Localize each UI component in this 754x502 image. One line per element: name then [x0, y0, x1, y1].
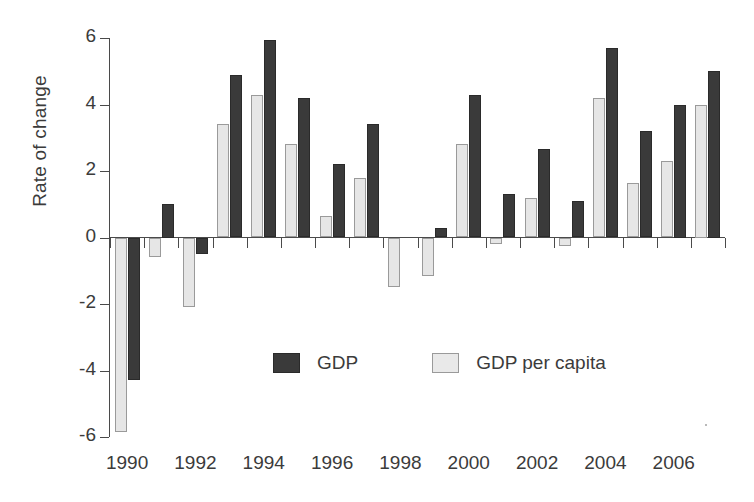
- y-axis-tick-label: 2: [58, 158, 96, 180]
- bar-gdp-per-capita: [320, 216, 332, 238]
- legend-item-gdp-per-capita: GDP per capita: [432, 352, 606, 374]
- y-axis-tick: [100, 371, 109, 372]
- x-axis-tick-label: 1996: [302, 452, 362, 474]
- bar-gdp: [538, 149, 550, 237]
- legend-item-gdp: GDP: [273, 352, 358, 374]
- bar-gdp-per-capita: [627, 183, 639, 238]
- y-axis-tick-label: 4: [58, 92, 96, 114]
- bar-gdp-per-capita: [388, 238, 400, 288]
- y-axis-tick-label: 0: [58, 225, 96, 247]
- bar-gdp: [128, 238, 140, 381]
- legend-swatch-gdp-per-capita-icon: [432, 353, 459, 373]
- bar-gdp: [367, 124, 379, 237]
- bar-gdp-per-capita: [183, 238, 195, 308]
- chart-legend: GDP GDP per capita: [273, 352, 606, 374]
- x-axis-tick-label: 2002: [507, 452, 567, 474]
- y-axis-title: Rate of change: [29, 31, 51, 251]
- bar-gdp-per-capita: [285, 144, 297, 237]
- bar-gdp-per-capita: [422, 238, 434, 276]
- bar-gdp: [196, 238, 208, 255]
- y-axis-tick: [100, 38, 109, 39]
- bar-gdp: [503, 194, 515, 237]
- y-axis-tick: [100, 238, 109, 239]
- bar-gdp: [298, 98, 310, 238]
- y-axis-tick: [100, 171, 109, 172]
- bar-gdp-per-capita: [593, 98, 605, 238]
- bar-gdp-per-capita: [490, 238, 502, 245]
- y-axis-tick: [100, 105, 109, 106]
- bar-gdp-per-capita: [456, 144, 468, 237]
- bar-gdp-per-capita: [149, 238, 161, 258]
- x-axis-tick-label: 1992: [165, 452, 225, 474]
- plot-area: [110, 38, 725, 437]
- bar-gdp-per-capita: [115, 238, 127, 433]
- bar-gdp: [469, 95, 481, 238]
- scan-speck: [705, 424, 707, 426]
- bar-gdp: [708, 71, 720, 237]
- bar-gdp: [674, 105, 686, 238]
- x-axis-tick: [725, 238, 726, 248]
- y-axis-tick-label: -6: [58, 424, 96, 446]
- legend-label-gdp: GDP: [317, 352, 358, 374]
- bar-gdp-per-capita: [525, 198, 537, 238]
- x-axis-tick-label: 1998: [370, 452, 430, 474]
- bar-gdp-per-capita: [354, 178, 366, 238]
- bar-gdp: [333, 164, 345, 237]
- bar-gdp: [230, 75, 242, 238]
- y-axis-tick-label: -4: [58, 358, 96, 380]
- bar-gdp: [264, 40, 276, 238]
- y-axis-tick-label: 6: [58, 25, 96, 47]
- bar-chart: Rate of change 6420-2-4-6 19901992199419…: [0, 0, 754, 502]
- bar-gdp: [572, 201, 584, 238]
- x-axis-tick-label: 1994: [234, 452, 294, 474]
- bar-gdp-per-capita: [661, 161, 673, 237]
- legend-label-gdp-per-capita: GDP per capita: [476, 352, 606, 374]
- y-axis-tick: [100, 437, 109, 438]
- y-axis-tick-label: -2: [58, 291, 96, 313]
- bar-gdp-per-capita: [695, 105, 707, 238]
- x-axis-tick-label: 2006: [644, 452, 704, 474]
- bar-gdp: [435, 228, 447, 238]
- bar-gdp: [606, 48, 618, 238]
- bar-gdp-per-capita: [251, 95, 263, 238]
- bar-gdp: [640, 131, 652, 237]
- x-axis-tick-label: 1990: [97, 452, 157, 474]
- bar-gdp: [162, 204, 174, 237]
- bar-gdp-per-capita: [217, 124, 229, 237]
- x-axis-tick-label: 2004: [575, 452, 635, 474]
- legend-swatch-gdp-icon: [273, 353, 300, 373]
- x-axis-tick-label: 2000: [439, 452, 499, 474]
- y-axis-tick: [100, 304, 109, 305]
- bar-gdp-per-capita: [559, 238, 571, 246]
